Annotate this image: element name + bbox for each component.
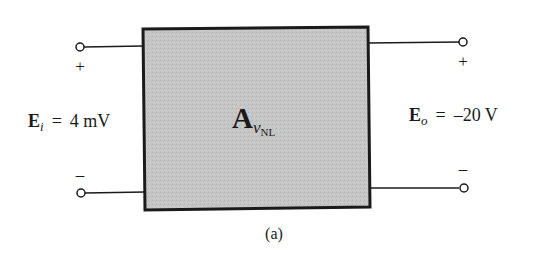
input-plus-sign: +: [75, 57, 85, 76]
output-voltage-value: –20 V: [453, 105, 498, 125]
amplifier-diagram: + – + – Ei=4 mV Eo=–20 V AvNL (a): [0, 0, 556, 266]
input-voltage-label: Ei=4 mV: [28, 111, 110, 134]
output-top-wire: [368, 42, 459, 43]
input-voltage-symbol: E: [28, 111, 40, 131]
output-equals: =: [436, 105, 446, 125]
output-minus-sign: –: [458, 159, 468, 178]
output-positive-terminal: [459, 38, 467, 46]
output-voltage-subscript: o: [421, 113, 428, 128]
input-minus-sign: –: [75, 165, 85, 184]
input-equals: =: [52, 111, 62, 131]
gain-symbol: A: [232, 102, 253, 134]
output-plus-sign: +: [458, 52, 468, 71]
gain-subscript-tag: NL: [261, 126, 276, 138]
output-voltage-symbol: E: [409, 105, 421, 125]
output-voltage-label: Eo=–20 V: [409, 105, 498, 128]
input-positive-terminal: [76, 43, 84, 51]
input-top-wire: [84, 46, 143, 47]
input-voltage-subscript: i: [40, 119, 44, 134]
input-bottom-wire: [85, 192, 145, 193]
figure-caption: (a): [265, 225, 283, 243]
input-negative-terminal: [77, 189, 85, 197]
output-negative-terminal: [460, 184, 468, 192]
input-voltage-value: 4 mV: [70, 111, 111, 131]
